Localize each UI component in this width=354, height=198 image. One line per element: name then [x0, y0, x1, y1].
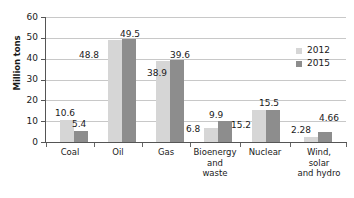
- gridline-30: [46, 80, 346, 81]
- y-tick-mark-50: [41, 38, 46, 39]
- y-tick-mark-10: [41, 121, 46, 122]
- y-tick-label-10: 10: [14, 117, 38, 126]
- x-axis-label-wind: Wind, solar and hydro: [290, 147, 348, 179]
- y-tick-label-0: 0: [14, 138, 38, 147]
- bar-bioenergy-2012: [204, 128, 218, 142]
- legend-label-2015: 2015: [307, 59, 330, 68]
- value-label-wind-2012: 2.28: [291, 125, 311, 135]
- legend-item-2012[interactable]: 2012: [296, 44, 330, 57]
- bar-group-wind: [304, 17, 332, 142]
- y-tick-mark-30: [41, 80, 46, 81]
- x-axis-label-coal: Coal: [46, 147, 94, 158]
- bar-nuclear-2012: [252, 110, 266, 142]
- x-axis-label-gas: Gas: [142, 147, 190, 158]
- bar-oil-2012: [108, 40, 122, 142]
- value-label-oil-2015: 49.5: [120, 29, 140, 39]
- legend: 2012 2015: [296, 44, 330, 70]
- value-label-bioenergy-2012: 6.8: [186, 124, 200, 134]
- y-tick-label-40: 40: [14, 54, 38, 63]
- gridline-20: [46, 100, 346, 101]
- y-tick-label-30: 30: [14, 75, 38, 84]
- bar-coal-2015: [74, 131, 88, 142]
- bar-gas-2015: [170, 60, 184, 143]
- bar-group-gas: [156, 17, 184, 142]
- y-tick-mark-40: [41, 59, 46, 60]
- y-tick-label-20: 20: [14, 96, 38, 105]
- value-label-wind-2015: 4.66: [319, 113, 339, 123]
- y-tick-mark-60: [41, 17, 46, 18]
- bar-group-nuclear: [252, 17, 280, 142]
- gridline-60: [46, 17, 346, 18]
- value-label-coal-2012: 10.6: [55, 108, 75, 118]
- value-label-gas-2015: 39.6: [170, 50, 190, 60]
- value-label-bioenergy-2015: 9.9: [209, 110, 223, 120]
- legend-swatch-2015-icon: [296, 61, 302, 67]
- x-axis-label-nuclear: Nuclear: [240, 147, 290, 158]
- value-label-nuclear-2012: 15.2: [231, 120, 251, 130]
- bar-wind-2015: [318, 132, 332, 142]
- gridline-50: [46, 38, 346, 39]
- value-label-oil-2012: 48.8: [79, 50, 99, 60]
- y-tick-label-50: 50: [14, 33, 38, 42]
- value-label-coal-2015: 5.4: [72, 119, 86, 129]
- bar-group-bioenergy: [204, 17, 232, 142]
- legend-label-2012: 2012: [307, 46, 330, 55]
- x-axis-label-oil: Oil: [94, 147, 142, 158]
- bar-nuclear-2015: [266, 110, 280, 142]
- value-label-gas-2012: 38.9: [147, 68, 167, 78]
- x-axis-label-bioenergy: Bioenergy and waste: [188, 147, 242, 179]
- bar-oil-2015: [122, 39, 136, 142]
- value-label-nuclear-2015: 15.5: [259, 98, 279, 108]
- legend-item-2015[interactable]: 2015: [296, 57, 330, 70]
- legend-swatch-2012-icon: [296, 48, 302, 54]
- y-tick-mark-20: [41, 100, 46, 101]
- y-tick-label-60: 60: [14, 13, 38, 22]
- gridline-10: [46, 121, 346, 122]
- bar-bioenergy-2015: [218, 121, 232, 142]
- x-axis-line: [45, 142, 347, 143]
- bar-chart: Million tons: [0, 0, 354, 198]
